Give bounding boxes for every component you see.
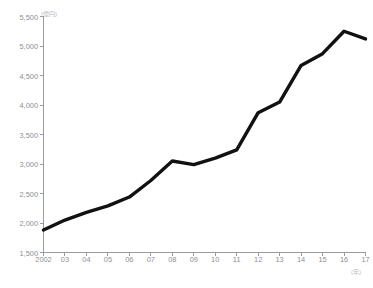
line-chart: (億円) (年) 5,5005,0004,5004,0003,5003,0002…: [0, 0, 373, 288]
chart-axes: [40, 17, 366, 257]
chart-plot-area: [0, 0, 373, 288]
data-series-group: [44, 31, 366, 230]
data-series-line: [44, 31, 366, 230]
